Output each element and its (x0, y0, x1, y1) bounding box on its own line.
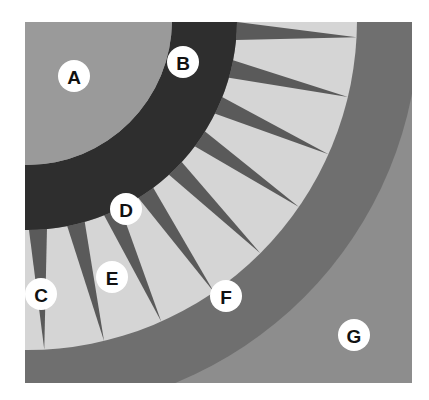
label-glyph-f: F (220, 287, 232, 308)
label-callout-e: E (96, 261, 128, 293)
label-glyph-c: C (34, 285, 48, 306)
label-callout-b: B (167, 46, 199, 78)
label-callout-d: D (110, 193, 142, 225)
label-glyph-e: E (106, 268, 119, 289)
figure-container: ABCDEFG (0, 0, 429, 400)
label-glyph-b: B (176, 53, 190, 74)
label-glyph-d: D (119, 200, 133, 221)
label-callout-a: A (58, 60, 90, 92)
radial-diagram: ABCDEFG (0, 0, 429, 400)
label-callout-f: F (210, 280, 242, 312)
label-glyph-g: G (347, 326, 362, 347)
label-callout-c: C (25, 278, 57, 310)
label-callout-g: G (338, 319, 370, 351)
label-glyph-a: A (67, 67, 81, 88)
